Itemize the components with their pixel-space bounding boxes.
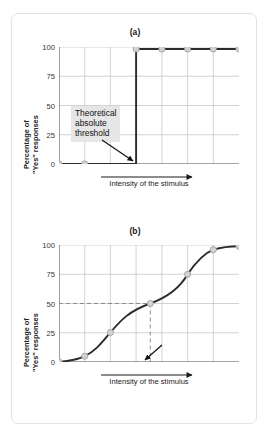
- panel-a-x-axis-arrow: [59, 168, 239, 178]
- panel-b-x-axis-arrow: [59, 366, 239, 376]
- panel-b-x-axis-group: Intensity of the stimulus: [59, 366, 239, 386]
- panel-a-ytick-0: 0: [51, 160, 55, 169]
- panel-b-y-axis-label-line2: "Yes" responses: [31, 313, 40, 372]
- panel-a: (a) Percentage of "Yes" responses 100 75…: [12, 14, 258, 219]
- panel-a-ytick-25: 25: [47, 130, 55, 139]
- panel-b-ytick-75: 75: [47, 270, 55, 279]
- panel-a-y-axis-label-line2: "Yes" responses: [31, 115, 40, 174]
- panel-a-ytick-100: 100: [42, 43, 55, 52]
- panel-a-y-axis-label-line1: Percentage of: [22, 120, 31, 169]
- panel-b-y-axis-label: Percentage of "Yes" responses: [22, 313, 40, 372]
- panel-b-ytick-50: 50: [47, 299, 55, 308]
- panel-b-ytick-25: 25: [47, 328, 55, 337]
- panel-a-ytick-75: 75: [47, 72, 55, 81]
- panel-a-x-axis-group: Intensity of the stimulus: [59, 168, 239, 188]
- panel-b-ytick-100: 100: [42, 241, 55, 250]
- panel-b: (b) Percentage of "Yes" responses 100 75…: [12, 219, 258, 425]
- figure-frame: (a) Percentage of "Yes" responses 100 75…: [11, 13, 257, 424]
- panel-b-ytick-0: 0: [51, 358, 55, 367]
- panel-a-annotation-callout: Theoretical absolute threshold: [71, 106, 120, 142]
- panel-a-title: (a): [12, 27, 258, 37]
- panel-a-y-axis-label: Percentage of "Yes" responses: [22, 115, 40, 174]
- panel-a-ytick-50: 50: [47, 101, 55, 110]
- panel-b-y-axis-label-line1: Percentage of: [22, 318, 31, 367]
- panel-b-chart-svg: [59, 245, 239, 362]
- panel-b-plot-area: 100 75 50 25 0: [59, 245, 239, 362]
- panel-b-title: (b): [12, 226, 258, 236]
